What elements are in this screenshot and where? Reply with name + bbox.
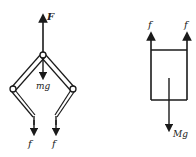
label-f-box-right: f [183, 19, 190, 30]
label-f-box-left: f [147, 19, 154, 30]
label-f-left: f [27, 138, 34, 149]
left-figure-tongs: F mg f f [10, 11, 76, 149]
label-mg: mg [36, 81, 51, 91]
top-pivot-circle [40, 52, 46, 58]
label-f-right: f [51, 138, 58, 149]
label-F: F [46, 11, 55, 22]
right-arm-lower-a [57, 92, 74, 117]
right-joint-circle [70, 86, 76, 92]
right-arm-lower-b [55, 90, 71, 115]
free-body-diagrams: F mg f f f f Mg [0, 0, 196, 157]
right-figure-box: f f Mg [147, 19, 190, 139]
left-arm-lower-a [12, 92, 33, 117]
left-joint-circle [10, 86, 16, 92]
left-arm-lower-b [15, 90, 35, 115]
label-Mg: Mg [172, 129, 188, 139]
